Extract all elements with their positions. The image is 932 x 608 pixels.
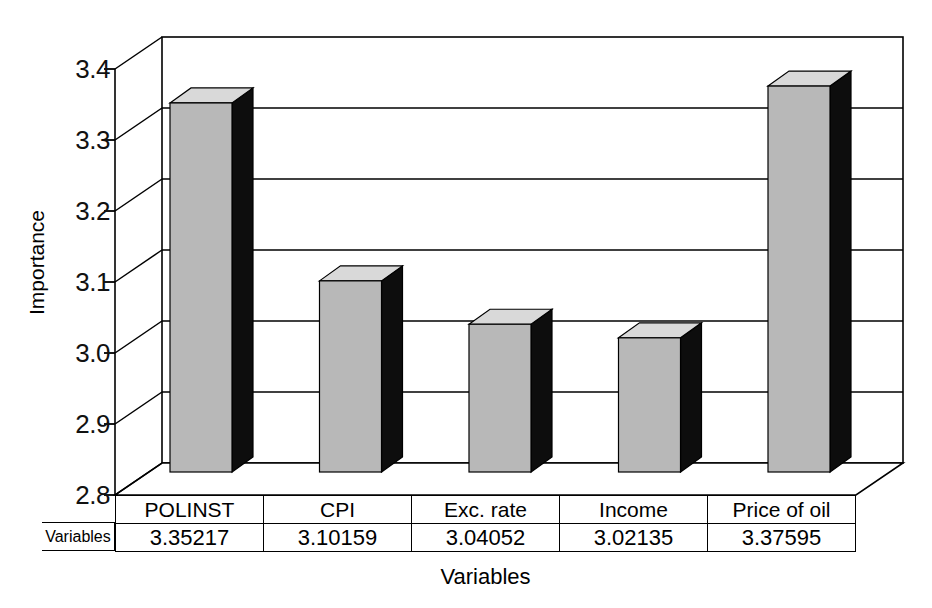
- y-tick-label-3.3: 3.3: [40, 127, 110, 153]
- table-cell-category-3: Income: [560, 496, 708, 524]
- bar-side-face: [830, 71, 851, 472]
- y-tick-label-3.2: 3.2: [40, 198, 110, 224]
- y-axis-title: Importance: [26, 183, 47, 343]
- table-cell-category-2: Exc. rate: [412, 496, 560, 524]
- y-connector-3.3: [115, 108, 162, 140]
- bar-front-face: [469, 324, 531, 472]
- x-axis-title: Variables: [115, 565, 856, 589]
- data-table: POLINST CPI Exc. rate Income Price of oi…: [115, 495, 856, 552]
- bar-side-face: [531, 309, 552, 472]
- bar-front-face: [320, 281, 382, 472]
- y-tick-label-3.0: 3.0: [40, 340, 110, 366]
- y-tick-label-3.4: 3.4: [40, 56, 110, 82]
- y-connector-3.2: [115, 179, 162, 211]
- y-tick-label-group: 3.4 3.3 3.2 3.1 3.0 2.9 2.8: [40, 0, 110, 608]
- y-tick-label-3.1: 3.1: [40, 269, 110, 295]
- table-row-header: Variables: [42, 522, 115, 551]
- y-connector-3.1: [115, 250, 162, 282]
- y-tick-connectors: [115, 37, 162, 495]
- table-row-categories: POLINST CPI Exc. rate Income Price of oi…: [116, 496, 856, 524]
- bar-income: [619, 323, 702, 472]
- y-connector-2.9: [115, 392, 162, 424]
- y-connector-3.4: [115, 37, 162, 69]
- bar-side-face: [232, 88, 253, 472]
- bar-cpi: [320, 266, 403, 472]
- table-cell-value-2: 3.04052: [412, 524, 560, 552]
- bar-front-face: [619, 338, 681, 472]
- y-tick-label-2.9: 2.9: [40, 411, 110, 437]
- bar-front-face: [768, 86, 830, 472]
- y-tick-label-2.8: 2.8: [40, 482, 110, 508]
- table-row-values: 3.35217 3.10159 3.04052 3.02135 3.37595: [116, 524, 856, 552]
- bar-exc-rate: [469, 309, 552, 472]
- table-cell-category-0: POLINST: [116, 496, 264, 524]
- table-cell-value-4: 3.37595: [708, 524, 856, 552]
- bar-side-face: [382, 266, 403, 472]
- table-cell-category-4: Price of oil: [708, 496, 856, 524]
- bar-front-face: [170, 103, 232, 472]
- y-connector-3.0: [115, 321, 162, 353]
- table-cell-value-3: 3.02135: [560, 524, 708, 552]
- chart-figure: 3.4 3.3 3.2 3.1 3.0 2.9 2.8 Importance V…: [0, 0, 932, 608]
- bar-polinst: [170, 88, 253, 472]
- bar-side-face: [681, 323, 702, 472]
- bar-price-of-oil: [768, 71, 851, 472]
- table-cell-value-0: 3.35217: [116, 524, 264, 552]
- table-cell-category-1: CPI: [264, 496, 412, 524]
- table-cell-value-1: 3.10159: [264, 524, 412, 552]
